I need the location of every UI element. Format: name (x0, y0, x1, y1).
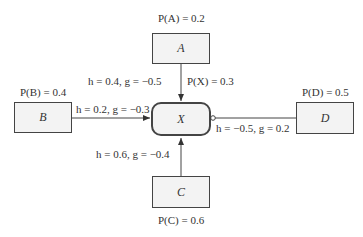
edge-label-a-x: h = 0.4, g = −0.5 (88, 75, 162, 87)
node-a: A (152, 33, 210, 64)
edge-label-c-x: h = 0.6, g = −0.4 (96, 148, 170, 160)
node-a-label: A (177, 41, 184, 56)
node-d-label: D (321, 111, 330, 126)
influence-diagram: P(A) = 0.2 A P(B) = 0.4 B P(D) = 0.5 D C… (0, 0, 363, 237)
node-d: D (296, 102, 354, 134)
node-b-label: B (39, 110, 46, 125)
edge-label-b-x: h = 0.2, g = −0.3 (76, 103, 150, 115)
edge-label-d-x: h = −0.5, g = 0.2 (216, 122, 290, 134)
prob-label-d: P(D) = 0.5 (302, 86, 349, 98)
node-x: X (151, 102, 211, 136)
node-c-label: C (177, 185, 185, 200)
node-b: B (14, 102, 72, 133)
prob-label-a: P(A) = 0.2 (158, 12, 205, 24)
prob-label-c: P(C) = 0.6 (158, 214, 204, 226)
node-c: C (152, 176, 210, 208)
node-x-label: X (177, 112, 184, 127)
prob-label-x: P(X) = 0.3 (187, 75, 234, 87)
inhibitor-circle-icon (211, 116, 216, 121)
prob-label-b: P(B) = 0.4 (20, 86, 66, 98)
